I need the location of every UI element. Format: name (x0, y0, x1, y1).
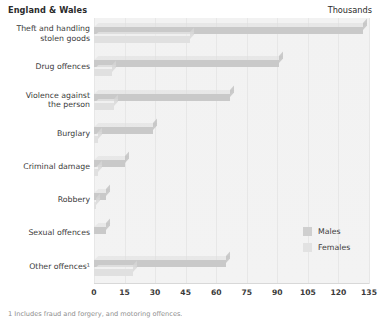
bar-females (94, 269, 133, 276)
category-label: Theft and handling stolen goods (0, 24, 90, 43)
category-label: Violence against the person (0, 91, 90, 110)
chart-footnote: 1 Includes fraud and forgery, and motori… (8, 310, 182, 318)
x-tick-label: 15 (119, 288, 130, 297)
bar-females (94, 202, 96, 209)
bar-females (94, 36, 190, 43)
x-tick-label: 30 (150, 288, 161, 297)
chart-region-label: England & Wales (8, 5, 87, 15)
bar-males (94, 60, 279, 67)
legend-item-males[interactable]: Males (303, 224, 350, 238)
bar-females (94, 103, 114, 110)
legend-swatch-males-icon (303, 227, 312, 236)
bar-males (94, 127, 153, 134)
chart-container: England & Wales Thousands Theft and hand… (0, 0, 379, 318)
x-tick-label: 135 (361, 288, 377, 297)
legend-swatch-females-icon (303, 243, 312, 252)
category-label: Burglary (0, 129, 90, 139)
x-tick-label: 75 (241, 288, 252, 297)
legend-label-females: Females (318, 243, 350, 252)
chart-legend: Males Females (303, 224, 350, 256)
bar-females (94, 69, 112, 76)
category-label: Drug offences (0, 62, 90, 72)
category-label: Robbery (0, 195, 90, 205)
category-label: Other offences¹ (0, 262, 90, 272)
bar-females (94, 136, 98, 143)
bar-females (94, 169, 98, 176)
x-tick-label: 105 (300, 288, 316, 297)
legend-item-females[interactable]: Females (303, 240, 350, 254)
category-label: Criminal damage (0, 162, 90, 172)
x-tick-label: 0 (91, 288, 96, 297)
x-tick-label: 45 (180, 288, 191, 297)
legend-label-males: Males (318, 227, 341, 236)
category-label: Sexual offences (0, 228, 90, 238)
x-tick-label: 120 (331, 288, 347, 297)
bar-males (94, 227, 106, 234)
chart-units-label: Thousands (328, 5, 372, 15)
gridline (369, 18, 370, 284)
x-axis-line (94, 283, 369, 284)
x-tick-label: 60 (211, 288, 222, 297)
x-tick-label: 90 (272, 288, 283, 297)
